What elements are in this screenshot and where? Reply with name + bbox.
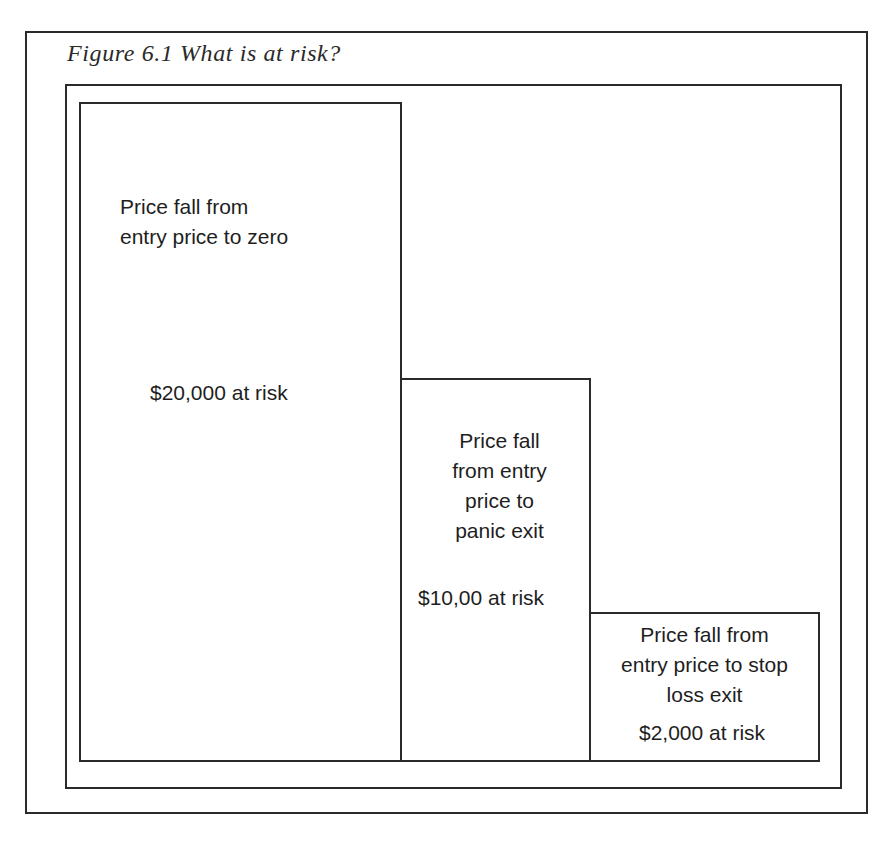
description-line: Price fall xyxy=(410,426,589,456)
risk-amount-label: $10,00 at risk xyxy=(418,583,544,613)
risk-amount-label: $20,000 at risk xyxy=(150,378,288,408)
description-line: Price fall from xyxy=(120,192,288,222)
risk-box-description: Price fall from entry price to zero xyxy=(120,192,288,252)
description-line: from entry xyxy=(410,456,589,486)
risk-box-description: Price fall from entry price to panic exi… xyxy=(402,426,589,546)
risk-box-stop-loss-exit: Price fall from entry price to stop loss… xyxy=(589,612,820,762)
risk-box-price-to-zero: Price fall from entry price to zero $20,… xyxy=(79,102,402,762)
risk-box-panic-exit: Price fall from entry price to panic exi… xyxy=(400,378,591,762)
description-line: Price fall from xyxy=(591,620,818,650)
risk-box-description: Price fall from entry price to stop loss… xyxy=(591,620,818,710)
description-line: entry price to stop xyxy=(591,650,818,680)
figure-caption: Figure 6.1 What is at risk? xyxy=(67,40,341,67)
description-line: loss exit xyxy=(591,680,818,710)
description-line: price to xyxy=(410,486,589,516)
description-line: entry price to zero xyxy=(120,222,288,252)
description-line: panic exit xyxy=(410,516,589,546)
risk-amount-label: $2,000 at risk xyxy=(639,718,765,748)
